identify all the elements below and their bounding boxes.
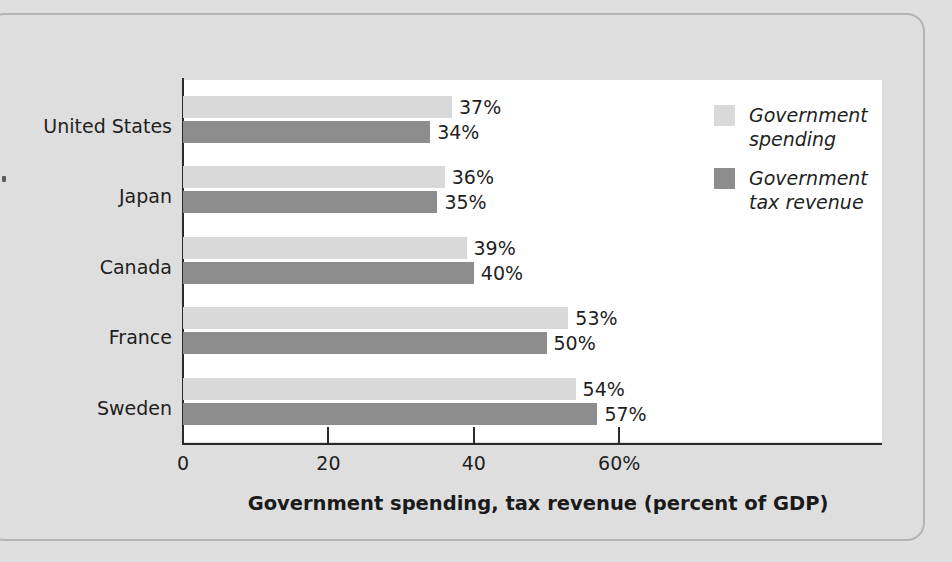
bar-spending <box>183 237 467 259</box>
bar-value-label: 34% <box>437 121 479 143</box>
x-tick-label-0: 0 <box>177 452 189 474</box>
x-tick-20 <box>327 427 329 444</box>
bar-value-label: 39% <box>474 237 516 259</box>
category-label-canada: Canada <box>2 256 172 278</box>
bar-tax-revenue <box>183 121 430 143</box>
legend-swatch-tax-revenue <box>714 168 735 189</box>
x-tick-40 <box>473 427 475 444</box>
bar-value-label: 57% <box>604 403 646 425</box>
bar-value-label: 40% <box>481 262 523 284</box>
bar-group: 54%57% <box>183 378 883 425</box>
x-tick-60 <box>618 427 620 444</box>
legend-item-tax-revenue[interactable]: Government tax revenue <box>714 166 868 214</box>
legend-label-tax-revenue: Government tax revenue <box>749 166 868 214</box>
bar-tax-revenue <box>183 191 437 213</box>
chart-figure: United StatesJapanCanadaFranceSweden 020… <box>0 0 952 562</box>
category-label-france: France <box>2 326 172 348</box>
bar-value-label: 50% <box>554 332 596 354</box>
x-axis-title: Government spending, tax revenue (percen… <box>183 492 893 515</box>
bar-tax-revenue <box>183 403 597 425</box>
bar-tax-revenue <box>183 332 547 354</box>
bar-group: 39%40% <box>183 237 883 284</box>
x-tick-label-60: 60% <box>598 452 640 474</box>
bar-value-label: 36% <box>452 166 494 188</box>
bar-value-label: 37% <box>459 96 501 118</box>
legend-item-spending[interactable]: Government spending <box>714 103 868 151</box>
x-tick-label-20: 20 <box>316 452 340 474</box>
bar-spending <box>183 166 445 188</box>
bar-spending <box>183 96 452 118</box>
category-label-japan: Japan <box>2 185 172 207</box>
bar-spending <box>183 378 576 400</box>
bar-value-label: 54% <box>583 378 625 400</box>
category-axis-labels: United StatesJapanCanadaFranceSweden <box>0 0 172 562</box>
bar-tax-revenue <box>183 262 474 284</box>
bar-group: 53%50% <box>183 307 883 354</box>
bar-value-label: 53% <box>575 307 617 329</box>
legend-label-spending: Government spending <box>749 103 868 151</box>
bar-value-label: 35% <box>444 191 486 213</box>
bar-spending <box>183 307 568 329</box>
category-label-sweden: Sweden <box>2 397 172 419</box>
x-tick-label-40: 40 <box>462 452 486 474</box>
x-axis-line <box>182 443 882 445</box>
category-label-united-states: United States <box>2 115 172 137</box>
legend-swatch-spending <box>714 105 735 126</box>
